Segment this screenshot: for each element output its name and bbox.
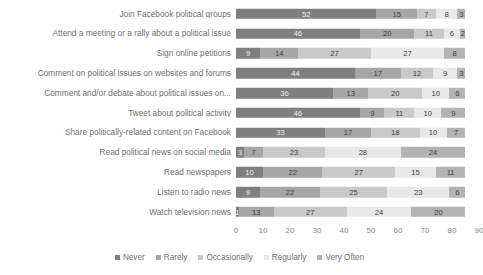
chart-row: Sign online petitions91427278 (0, 44, 479, 64)
bar-segment-rarely[interactable]: 14 (260, 48, 298, 59)
bar-segment-rarely[interactable]: 22 (260, 187, 319, 198)
bar-segment-never[interactable]: 46 (236, 28, 360, 39)
bar-segment-regularly[interactable]: 10 (422, 88, 449, 99)
legend-label: Rarely (164, 253, 188, 262)
bar-segment-occasionally[interactable]: 7 (417, 9, 436, 20)
bar-segment-rarely[interactable]: 20 (360, 28, 414, 39)
segment-value-label: 52 (302, 9, 310, 18)
bar-segment-rarely[interactable]: 13 (239, 207, 274, 218)
chart-row: Comment on political issues on websites … (0, 63, 479, 83)
bar-track: 37232824 (236, 143, 479, 163)
segment-value-label: 36 (280, 89, 288, 98)
bar-segment-never[interactable]: 52 (236, 9, 376, 20)
bar-segment-never[interactable]: 33 (236, 127, 325, 138)
bar-segment-occasionally[interactable]: 23 (263, 147, 325, 158)
legend-item-very-often[interactable]: Very Often (317, 253, 364, 262)
chart-row: Watch television news113272420 (0, 202, 479, 222)
segment-value-label: 17 (374, 69, 382, 78)
bar-segment-occasionally[interactable]: 25 (320, 187, 388, 198)
bar-segment-never[interactable]: 3 (236, 147, 244, 158)
segment-value-label: 12 (413, 69, 421, 78)
bar-segment-rarely[interactable]: 17 (325, 127, 371, 138)
bar-segment-very-often[interactable]: 8 (444, 48, 466, 59)
stacked-bar[interactable]: 44171293 (236, 68, 465, 79)
stacked-bar[interactable]: 113272420 (236, 207, 465, 218)
bar-segment-regularly[interactable]: 24 (347, 207, 412, 218)
bar-segment-regularly[interactable]: 10 (414, 108, 441, 119)
stacked-bar[interactable]: 1022271511 (236, 167, 465, 178)
bar-segment-occasionally[interactable]: 27 (274, 207, 347, 218)
segment-value-label: 27 (355, 168, 363, 177)
bar-segment-regularly[interactable]: 6 (444, 28, 460, 39)
legend-label: Occasionally (206, 253, 252, 262)
bar-segment-rarely[interactable]: 15 (376, 9, 417, 20)
stacked-bar[interactable]: 92225236 (236, 187, 465, 198)
category-label: Read political news on social media (0, 148, 236, 157)
bar-segment-rarely[interactable]: 9 (360, 108, 384, 119)
bar-segment-rarely[interactable]: 13 (333, 88, 368, 99)
x-axis-tick: 0 (234, 226, 238, 235)
bar-segment-very-often[interactable]: 2 (460, 28, 465, 39)
stacked-bar[interactable]: 91427278 (236, 48, 465, 59)
category-label: Watch television news (0, 208, 236, 217)
legend-item-never[interactable]: Never (115, 253, 145, 262)
bar-track: 331718107 (236, 123, 479, 143)
bar-segment-regularly[interactable]: 27 (371, 48, 444, 59)
segment-value-label: 7 (424, 9, 428, 18)
stacked-bar[interactable]: 37232824 (236, 147, 465, 158)
segment-value-label: 7 (454, 128, 458, 137)
bar-segment-occasionally[interactable]: 12 (401, 68, 433, 79)
bar-segment-very-often[interactable]: 3 (457, 68, 465, 79)
bar-segment-never[interactable]: 9 (236, 48, 260, 59)
bar-segment-regularly[interactable]: 15 (395, 167, 436, 178)
bar-segment-very-often[interactable]: 24 (401, 147, 466, 158)
bar-segment-regularly[interactable]: 9 (433, 68, 457, 79)
segment-value-label: 3 (459, 9, 463, 18)
bar-segment-regularly[interactable]: 23 (387, 187, 449, 198)
bar-segment-very-often[interactable]: 11 (436, 167, 466, 178)
bar-segment-very-often[interactable]: 3 (457, 9, 465, 20)
bar-segment-occasionally[interactable]: 11 (414, 28, 444, 39)
bar-segment-rarely[interactable]: 17 (355, 68, 401, 79)
bar-segment-very-often[interactable]: 9 (441, 108, 465, 119)
segment-value-label: 3 (238, 148, 242, 157)
category-label: Share politically-related content on Fac… (0, 128, 236, 137)
segment-value-label: 25 (349, 188, 357, 197)
bar-segment-occasionally[interactable]: 18 (371, 127, 420, 138)
bar-segment-never[interactable]: 36 (236, 88, 333, 99)
legend-item-regularly[interactable]: Regularly (264, 253, 307, 262)
stacked-bar[interactable]: 331718107 (236, 127, 465, 138)
bar-segment-occasionally[interactable]: 27 (298, 48, 371, 59)
bar-segment-regularly[interactable]: 8 (436, 9, 458, 20)
segment-value-label: 13 (252, 207, 260, 216)
bar-segment-very-often[interactable]: 7 (447, 127, 466, 138)
bar-segment-regularly[interactable]: 10 (420, 127, 447, 138)
bar-segment-never[interactable]: 46 (236, 108, 360, 119)
bar-segment-rarely[interactable]: 7 (244, 147, 263, 158)
bar-track: 113272420 (236, 202, 479, 222)
stacked-bar[interactable]: 361320106 (236, 88, 465, 99)
chart-row: Attend a meeting or a rally about a poli… (0, 24, 479, 44)
legend-item-occasionally[interactable]: Occasionally (198, 253, 252, 262)
category-label: Comment and/or debate about political is… (0, 89, 236, 98)
bar-segment-very-often[interactable]: 20 (411, 207, 465, 218)
bar-segment-never[interactable]: 44 (236, 68, 355, 79)
bar-segment-never[interactable]: 9 (236, 187, 260, 198)
bar-segment-occasionally[interactable]: 27 (322, 167, 395, 178)
legend-item-rarely[interactable]: Rarely (156, 253, 188, 262)
bar-segment-occasionally[interactable]: 11 (384, 108, 414, 119)
bar-track: 361320106 (236, 83, 479, 103)
stacked-bar[interactable]: 46201162 (236, 28, 465, 39)
bar-segment-very-often[interactable]: 6 (449, 88, 465, 99)
stacked-bar[interactable]: 5215783 (236, 9, 465, 20)
segment-value-label: 11 (425, 29, 433, 38)
bar-segment-never[interactable]: 10 (236, 167, 263, 178)
stacked-bar[interactable]: 46911109 (236, 108, 465, 119)
segment-value-label: 27 (403, 49, 411, 58)
chart-row: Share politically-related content on Fac… (0, 123, 479, 143)
bar-segment-occasionally[interactable]: 20 (368, 88, 422, 99)
bar-segment-rarely[interactable]: 22 (263, 167, 322, 178)
bar-segment-regularly[interactable]: 28 (325, 147, 401, 158)
bar-segment-very-often[interactable]: 6 (449, 187, 465, 198)
